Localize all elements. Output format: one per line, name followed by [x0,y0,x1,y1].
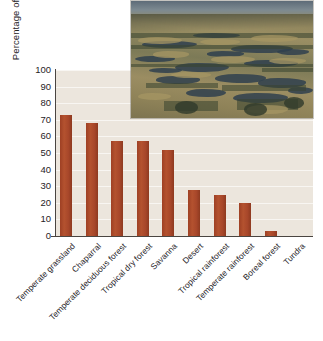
bar-temperate-grassland [60,115,72,236]
y-tick-label-50: 50 [27,148,51,158]
photo-pothole-wetland [244,103,268,115]
bar-savanna [162,150,174,236]
bar-temperate-deciduous-forest [111,141,123,236]
bar-temperate-rainforest [239,203,251,236]
y-tick-label-30: 30 [27,181,51,191]
y-tick-label-20: 20 [27,198,51,208]
photo-pothole-wetland [284,97,304,108]
y-tick-label-60: 60 [27,131,51,141]
aerial-photograph-inset [131,1,313,118]
photo-field-patch [269,58,305,64]
gridline-70 [56,120,313,121]
y-tick-label-40: 40 [27,165,51,175]
y-tick-label-70: 70 [27,115,51,125]
photo-water-patch [277,49,310,55]
y-tick-label-90: 90 [27,82,51,92]
bar-chaparral [86,123,98,236]
photo-vegetation-band [222,85,306,91]
bar-tropical-dry-forest [137,141,149,236]
photo-vegetation-band [146,83,219,88]
photo-field-patch [211,56,255,63]
x-axis-category-labels: Temperate grasslandChaparralTemperate de… [0,236,323,341]
bar-tropical-rainforest [214,195,226,237]
photo-field-patch [138,37,182,44]
photo-field-patch [251,35,298,42]
y-axis-tick-labels: 1009080706050403020100 [27,62,51,244]
habitat-loss-bar-chart: Percentage of habitat lost 1009080706050… [0,0,323,341]
y-axis-title: Percentage of habitat lost [7,0,25,88]
bar-desert [188,190,200,236]
photo-vegetation-band [262,68,313,72]
photo-landscape [131,14,313,118]
y-tick-label-10: 10 [27,214,51,224]
photo-vegetation-band [131,45,313,49]
photo-water-patch [186,89,226,97]
photo-field-patch [153,51,189,57]
photo-field-patch [138,93,171,100]
y-axis-line [55,69,56,237]
photo-pothole-wetland [175,101,199,113]
photo-vegetation-band [131,64,313,67]
y-tick-label-80: 80 [27,98,51,108]
y-tick-label-100: 100 [27,65,51,75]
